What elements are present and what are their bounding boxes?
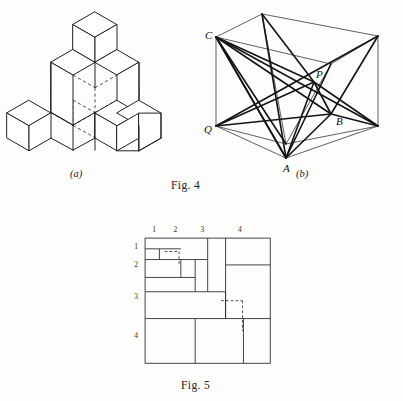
diagonal-A-B: [286, 114, 331, 158]
row-label-1: 1: [134, 242, 138, 251]
subdivision-lines-group: [145, 238, 270, 363]
caption-figure-5: Fig. 5: [181, 379, 210, 391]
vertex-label-B: B: [336, 115, 343, 127]
box-edge-Q-A: [216, 126, 286, 158]
diagonal-Q-P: [216, 82, 314, 126]
vertex-label-Q: Q: [204, 123, 212, 135]
row-label-4: 4: [134, 331, 138, 340]
figure-5-squared-square: 1234 1234: [120, 222, 290, 374]
caption-figure-4: Fig. 4: [171, 179, 200, 191]
box-edge-T1-T2: [262, 14, 378, 36]
box-edge-C-T3: [216, 37, 331, 64]
vertex-label-A: A: [282, 162, 290, 174]
sublabel-a: (a): [70, 168, 82, 179]
row-label-2: 2: [134, 260, 138, 269]
diagonal-C-B: [216, 37, 331, 114]
sublabel-b: (b): [296, 168, 308, 179]
squared-square-svg: 1234 1234: [120, 222, 290, 374]
box-edge-C-T1: [216, 14, 262, 37]
diagonal-P-T1: [262, 14, 314, 82]
row-labels-group: 1234: [134, 242, 138, 340]
column-label-2: 2: [174, 225, 178, 234]
column-label-3: 3: [200, 225, 204, 234]
diagonal-A-T3: [286, 64, 331, 158]
vertex-label-C: C: [205, 29, 213, 41]
column-label-1: 1: [152, 225, 156, 234]
figure-4a-cube-stack: [0, 0, 190, 170]
column-labels-group: 1234: [152, 225, 242, 234]
vertex-label-P: P: [315, 68, 323, 80]
parallelepiped-svg: CQABP: [193, 4, 403, 172]
diagonal-B-T2: [331, 36, 378, 114]
figure-4b-parallelepiped: CQABP: [193, 4, 403, 172]
cube-stack-svg: [0, 0, 190, 170]
diagonals-group: [216, 14, 378, 158]
row-label-3: 3: [134, 292, 138, 301]
column-label-4: 4: [238, 225, 242, 234]
book-page-figures: CQABP 1234 1234 (a) (b) Fig. 4 Fig. 5: [0, 0, 403, 401]
